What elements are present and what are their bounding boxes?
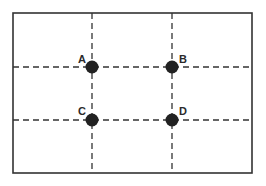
point-d [166,114,179,127]
point-label-d: D [179,105,187,117]
point-a [86,61,99,74]
frame-border [13,13,252,173]
point-label-c: C [78,105,86,117]
point-label-a: A [78,53,86,65]
rule-of-thirds-diagram: ABCD [0,0,266,186]
point-b [166,61,179,74]
point-label-b: B [179,53,187,65]
point-c [86,114,99,127]
